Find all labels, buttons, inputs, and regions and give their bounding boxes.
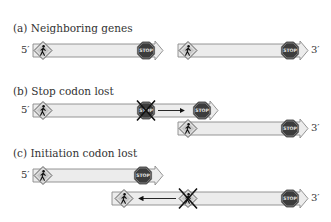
panel-b bbox=[33, 101, 308, 139]
panel-c bbox=[33, 166, 308, 209]
stop-sign-icon bbox=[193, 102, 210, 119]
gene-diagram: STOP bbox=[0, 0, 331, 222]
gene-bar-b1 bbox=[33, 101, 218, 120]
panel-a bbox=[33, 41, 308, 60]
stop-sign-icon bbox=[134, 167, 151, 184]
stop-sign-icon bbox=[281, 42, 298, 59]
stop-sign-icon bbox=[281, 190, 298, 207]
stop-sign-icon bbox=[137, 42, 154, 59]
stop-sign-icon bbox=[281, 120, 298, 137]
